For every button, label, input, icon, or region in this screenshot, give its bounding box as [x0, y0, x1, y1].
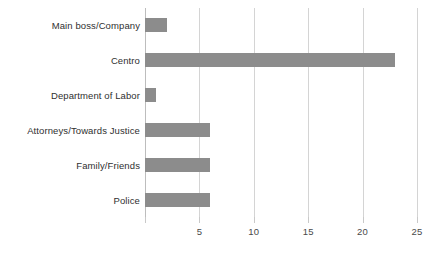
plot-area — [145, 8, 417, 217]
bar-main-boss-company[interactable] — [145, 18, 167, 32]
bar-centro[interactable] — [145, 53, 395, 67]
x-tick-label-20: 20 — [357, 226, 368, 237]
bar-attorneys-towards-justice[interactable] — [145, 123, 210, 137]
gridline-25 — [417, 8, 418, 217]
gridline-5 — [199, 8, 200, 217]
x-tick-label-25: 25 — [412, 226, 423, 237]
gridline-15 — [308, 8, 309, 217]
x-tick-label-10: 10 — [248, 226, 259, 237]
tick-mark-5 — [199, 217, 200, 223]
tick-mark-20 — [363, 217, 364, 223]
tick-mark-10 — [254, 217, 255, 223]
gridline-0 — [145, 8, 146, 217]
x-tick-label-15: 15 — [303, 226, 314, 237]
bar-police[interactable] — [145, 193, 210, 207]
category-label: Police — [114, 194, 140, 205]
bar-department-of-labor[interactable] — [145, 88, 156, 102]
category-label: Main boss/Company — [52, 20, 140, 31]
category-label: Family/Friends — [76, 159, 140, 170]
tick-mark-25 — [417, 217, 418, 223]
gridline-10 — [254, 8, 255, 217]
category-label: Attorneys/Towards Justice — [27, 124, 140, 135]
gridline-20 — [363, 8, 364, 217]
category-label: Department of Labor — [51, 90, 140, 101]
tick-mark-0 — [145, 217, 146, 223]
x-tick-label-5: 5 — [197, 226, 202, 237]
tick-mark-15 — [308, 217, 309, 223]
bar-family-friends[interactable] — [145, 158, 210, 172]
category-label: Centro — [111, 55, 140, 66]
bar-chart: Main boss/Company Centro Department of L… — [0, 0, 432, 254]
